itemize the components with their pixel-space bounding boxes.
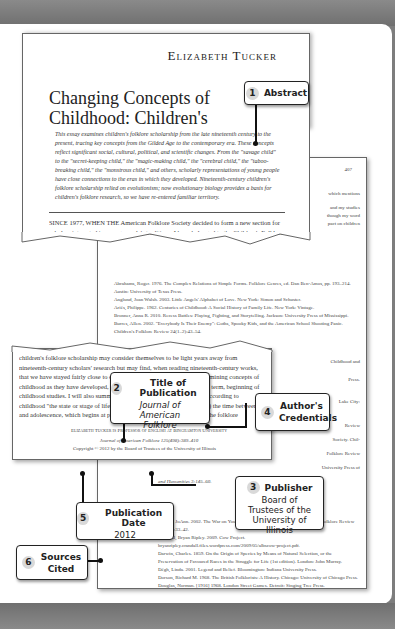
right-snippet: Press.: [300, 376, 360, 384]
connector-dot: [253, 141, 258, 146]
references-list: Abrahams, Roger. 1976. The Complex Relat…: [114, 280, 354, 336]
connector-dot: [205, 424, 210, 429]
reference-item: Ariès, Philippe. 1962. Centuries of Chil…: [114, 304, 354, 312]
abstract-section: This essay examines children's folklore …: [22, 128, 310, 236]
callout-detail: Journal of American Folklore: [125, 400, 195, 430]
callout-label: Publisher: [265, 483, 313, 493]
callout-label: Author's Credentials: [279, 400, 324, 424]
callout-number-badge: 3: [247, 481, 260, 494]
reference-item: Dégh, Linda. 2001. Legend and Belief. Bl…: [158, 566, 358, 574]
right-snippet: Folklore Review: [300, 450, 360, 458]
page-number: 407: [345, 166, 353, 174]
copyright-line: Copyright © 2012 by the Board of Trustee…: [27, 445, 262, 453]
callout-detail: Board of Trustees of the University of I…: [245, 495, 315, 535]
reference-item: Darwin, Charles. 1859. On the Origin of …: [158, 550, 358, 566]
callout-authors-credentials: 4Author's Credentials: [255, 393, 330, 431]
abstract-text: This essay examines children's folklore …: [55, 130, 281, 202]
bottom-band: [0, 603, 395, 629]
callout-label: Title of Publication: [127, 378, 209, 398]
right-snippet: Childhood and: [300, 358, 360, 366]
journal-citation: Journal of American Folklore 125(498):38…: [49, 437, 249, 445]
connector-line: [255, 105, 257, 143]
reference-item: Douglas, Norman. [1916] 1968. London Str…: [158, 582, 358, 590]
reference-item: Crandall, Bryan Ripley. 2009. Cow Projec…: [158, 534, 358, 550]
torn-edge-top: [10, 340, 274, 352]
top-band: [0, 0, 395, 26]
callout-sources-cited: 6Sources Cited: [16, 545, 88, 580]
callout-number-badge: 6: [22, 556, 35, 569]
callout-label: Abstract: [264, 88, 307, 98]
abstract-rule: [49, 212, 285, 213]
connector-line: [82, 473, 84, 503]
torn-edge: [20, 232, 312, 246]
callout-label: Sources Cited: [40, 551, 82, 575]
connector-line: [245, 403, 247, 427]
reference-item: Dorson, Richard M. 1968. The British Fol…: [158, 574, 358, 582]
callout-label: Publication Date: [94, 508, 173, 528]
right-snippet: Society. Chil-: [300, 436, 360, 444]
connector-dot: [80, 471, 85, 476]
callout-number-badge: 2: [111, 382, 122, 395]
reference-item: Abrahams, Roger. 1976. The Complex Relat…: [114, 280, 354, 296]
callout-title-of-publication: 2Title of Publication Journal of America…: [110, 372, 210, 424]
callout-number-badge: 1: [246, 87, 259, 100]
connector-dot: [98, 558, 103, 563]
connector-line: [209, 426, 247, 428]
connector-line: [151, 484, 196, 486]
callout-number-badge: 5: [77, 512, 89, 525]
callout-abstract: 1Abstract: [244, 81, 309, 105]
connector-dot: [121, 438, 126, 443]
reference-item: Bronner, Anna R. 2010. Recess Battles: P…: [114, 312, 354, 320]
connector-dot: [149, 471, 154, 476]
reference-item: Anglund, Joan Walsh. 2003. Little Angels…: [114, 296, 354, 304]
callout-detail: 2012: [77, 530, 173, 540]
reference-item: Burres, Allen. 2002. "Everybody Is Their…: [114, 320, 354, 336]
author-name: Elizabeth Tucker: [168, 48, 277, 64]
callout-publisher: 3Publisher Board of Trustees of the Univ…: [235, 476, 324, 530]
callout-number-badge: 4: [261, 406, 274, 419]
callout-publication-date: 5Publication Date 2012: [76, 502, 174, 540]
right-snippet: University Press of: [300, 464, 360, 472]
